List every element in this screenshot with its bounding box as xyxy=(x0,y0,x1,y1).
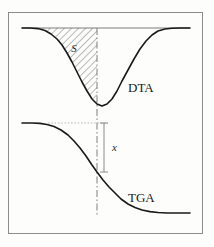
tga-curve xyxy=(22,123,190,213)
dta-label: DTA xyxy=(128,80,154,95)
mass-loss-label: x xyxy=(111,141,117,153)
mass-loss-bracket xyxy=(100,123,108,172)
peak-area-label: S xyxy=(71,42,77,54)
tga-label: TGA xyxy=(128,190,155,205)
figure-container: S x DTA TGA xyxy=(0,0,214,247)
peak-area-hatched-region xyxy=(20,26,100,108)
dta-curve xyxy=(22,28,190,106)
thermal-analysis-figure: S x DTA TGA xyxy=(0,0,214,247)
